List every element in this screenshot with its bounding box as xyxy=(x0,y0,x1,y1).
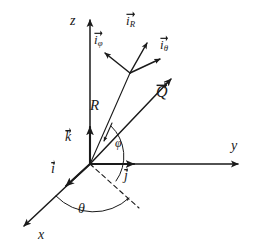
angle-arc-theta xyxy=(56,196,129,212)
projection-line-dashed xyxy=(90,164,139,208)
unit-vector-iphi xyxy=(105,53,130,73)
basis-vector-i xyxy=(66,164,90,186)
vector-diagram-figure: z y x k i xyxy=(0,0,258,251)
position-vector-Q xyxy=(90,79,171,164)
angle-arc-phi xyxy=(111,126,124,181)
diagram-canvas xyxy=(0,0,258,251)
